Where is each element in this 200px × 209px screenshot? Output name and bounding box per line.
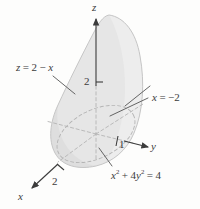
ellipse-term2-exponent: 2	[141, 168, 144, 175]
xneg2-value: −2	[168, 91, 180, 103]
y-axis-label: y	[151, 141, 156, 152]
plane-equals: =	[23, 61, 29, 73]
plane-constant: 2	[32, 61, 38, 73]
ellipse-equals: =	[147, 169, 153, 181]
three-d-region-figure: z y x 2 1 2 z=2−x x=−2 x2+4y2=4	[0, 0, 200, 209]
xneg2-equals: =	[159, 91, 165, 103]
xneg2-variable: x	[152, 91, 157, 103]
x-axis-tick-label-2: 2	[52, 176, 58, 187]
solid-region-shading	[51, 15, 143, 167]
y-axis-tick-label-1: 1	[119, 139, 125, 150]
x-equals-negative-two-label: x=−2	[152, 92, 180, 103]
ellipse-plus: +	[122, 169, 128, 181]
z-axis-tick-label-2: 2	[84, 76, 90, 87]
x-tick-2	[57, 164, 64, 170]
plane-lhs: z	[16, 61, 20, 73]
ellipse-rhs: 4	[156, 169, 162, 181]
x-axis-label: x	[18, 191, 23, 202]
z-axis-label: z	[92, 2, 96, 13]
cylinder-equation-label: x2+4y2=4	[111, 170, 161, 181]
plane-variable: x	[48, 61, 53, 73]
figure-graphics	[0, 0, 200, 209]
plane-equation-label: z=2−x	[16, 62, 53, 73]
ellipse-term1-exponent: 2	[116, 168, 119, 175]
plane-minus: −	[40, 61, 46, 73]
